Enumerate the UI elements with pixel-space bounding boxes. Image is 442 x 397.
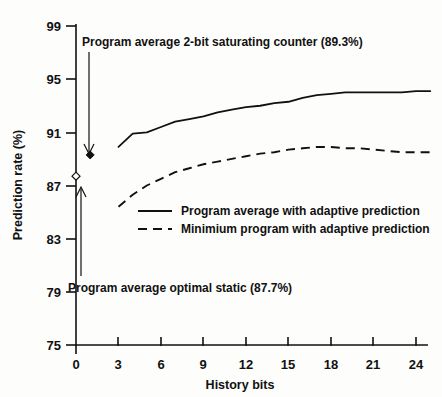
y-tick-label-91: 91 xyxy=(47,126,61,141)
annotation-static-label: Program average optimal static (87.7%) xyxy=(68,281,292,295)
x-tick-label-24: 24 xyxy=(409,357,424,372)
series-minimium-program-adaptive xyxy=(119,147,431,207)
marker-optimal-static xyxy=(72,172,80,180)
series-program-average-adaptive xyxy=(119,91,431,147)
y-tick-label-75: 75 xyxy=(47,338,61,353)
y-axis-title: Prediction rate (%) xyxy=(11,130,25,240)
prediction-rate-line-chart: 99 95 91 87 83 79 75 Prediction rate (%)… xyxy=(0,0,442,397)
chart-figure: 99 95 91 87 83 79 75 Prediction rate (%)… xyxy=(0,0,442,397)
chart-legend: Program average with adaptive prediction… xyxy=(138,204,430,236)
x-axis: 0 3 6 9 12 15 18 21 24 History bits xyxy=(72,337,428,392)
x-axis-title: History bits xyxy=(206,378,275,392)
x-tick-label-3: 3 xyxy=(114,357,121,372)
y-axis: 99 95 91 87 83 79 75 Prediction rate (%) xyxy=(11,19,76,353)
x-tick-label-0: 0 xyxy=(72,357,79,372)
legend-label-dashed: Minimium program with adaptive predictio… xyxy=(181,222,430,236)
x-tick-label-21: 21 xyxy=(366,357,380,372)
y-tick-label-83: 83 xyxy=(47,232,61,247)
x-tick-label-9: 9 xyxy=(199,357,206,372)
y-tick-label-99: 99 xyxy=(47,19,61,34)
x-tick-label-18: 18 xyxy=(324,357,338,372)
annotation-2bit-label: Program average 2-bit saturating counter… xyxy=(82,35,363,49)
y-tick-label-95: 95 xyxy=(47,72,61,87)
x-tick-label-15: 15 xyxy=(281,357,295,372)
legend-label-solid: Program average with adaptive prediction xyxy=(181,204,420,218)
x-tick-label-6: 6 xyxy=(157,357,164,372)
y-tick-label-87: 87 xyxy=(47,179,61,194)
y-tick-label-79: 79 xyxy=(47,285,61,300)
x-tick-label-12: 12 xyxy=(239,357,253,372)
